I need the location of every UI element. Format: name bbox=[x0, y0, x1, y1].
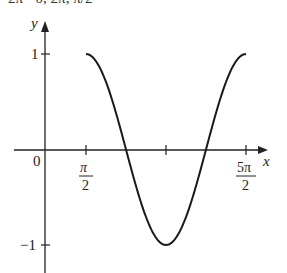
y-tick-label-1: 1 bbox=[31, 46, 39, 62]
y-tick-label-neg1: −1 bbox=[20, 237, 36, 253]
x-axis-label: x bbox=[262, 153, 270, 169]
x-tick-label-pi-den: 2 bbox=[82, 178, 89, 193]
y-axis-label: y bbox=[29, 15, 38, 31]
x-tick-label-pi-num: π bbox=[80, 160, 88, 175]
x-tick-label-5pi-num: 5π bbox=[237, 160, 251, 175]
y-axis-arrow-icon bbox=[41, 21, 49, 32]
x-tick-label-5pi-den: 2 bbox=[242, 178, 249, 193]
origin-label: 0 bbox=[33, 153, 41, 169]
sine-graph: y x 1 −1 0 π 2 5π 2 bbox=[0, 0, 287, 273]
